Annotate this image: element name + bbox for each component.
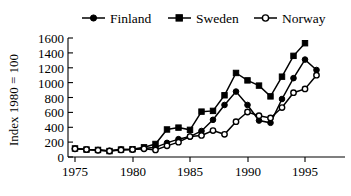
y-tick-label: 800 — [45, 91, 65, 106]
data-point-filled-square — [233, 70, 238, 75]
data-point-filled-square — [222, 93, 227, 98]
data-point-filled-square — [176, 125, 181, 130]
x-tick-label: 1980 — [120, 164, 146, 179]
legend-label-finland: Finland — [110, 11, 152, 26]
data-point-open-circle — [279, 105, 284, 110]
x-tick-label: 1990 — [235, 164, 261, 179]
y-axis-title-group: Index 1980 = 100 — [6, 54, 21, 146]
data-point-open-circle — [118, 147, 123, 152]
x-tick-label: 1985 — [177, 164, 203, 179]
open-circle-icon — [262, 15, 268, 21]
legend-label-sweden: Sweden — [196, 11, 239, 26]
data-point-filled-circle — [291, 75, 297, 81]
x-tick-label: 1995 — [292, 164, 318, 179]
data-point-filled-square — [256, 83, 261, 88]
y-tick-label: 1000 — [38, 76, 64, 91]
data-point-open-circle — [95, 148, 100, 153]
data-point-open-circle — [141, 146, 146, 151]
data-point-filled-circle — [233, 89, 239, 95]
data-point-open-circle — [245, 109, 250, 114]
data-point-filled-square — [153, 141, 158, 146]
filled-square-icon — [176, 15, 182, 21]
series-layer — [72, 41, 319, 154]
data-point-open-circle — [153, 147, 158, 152]
data-point-open-circle — [233, 119, 238, 124]
data-point-open-circle — [187, 134, 192, 139]
data-point-filled-square — [199, 109, 204, 114]
data-point-filled-square — [187, 127, 192, 132]
data-point-open-circle — [210, 128, 215, 133]
data-point-open-circle — [314, 72, 319, 77]
legend-label-norway: Norway — [282, 11, 326, 26]
y-tick-label: 0 — [58, 150, 65, 165]
data-point-open-circle — [164, 143, 169, 148]
data-point-open-circle — [130, 147, 135, 152]
legend-item-norway: Norway — [254, 11, 326, 26]
legend-item-sweden: Sweden — [168, 11, 239, 26]
y-tick-label: 200 — [45, 135, 65, 150]
data-point-open-circle — [256, 113, 261, 118]
data-point-filled-circle — [245, 102, 251, 108]
data-point-filled-square — [291, 53, 296, 58]
chart-container: Finland Sweden Norway Index 1980 = 100 — [0, 0, 351, 196]
data-point-filled-square — [302, 41, 307, 46]
data-point-open-circle — [176, 139, 181, 144]
data-point-filled-square — [268, 94, 273, 99]
data-point-open-circle — [291, 90, 296, 95]
data-point-open-circle — [84, 147, 89, 152]
data-point-filled-square — [164, 127, 169, 132]
data-point-filled-square — [279, 74, 284, 79]
filled-circle-icon — [90, 15, 96, 21]
data-point-open-circle — [222, 132, 227, 137]
y-tick-label: 1200 — [38, 61, 64, 76]
data-point-open-circle — [199, 133, 204, 138]
line-chart: Finland Sweden Norway Index 1980 = 100 — [0, 0, 351, 196]
data-point-filled-square — [245, 78, 250, 83]
axis-lines — [68, 38, 345, 157]
data-point-filled-circle — [302, 57, 308, 63]
data-point-filled-circle — [222, 102, 228, 108]
x-axis-ticks: 1975 1980 1985 1990 1995 — [62, 157, 318, 179]
legend-item-finland: Finland — [82, 11, 152, 26]
series-line-norway — [75, 75, 317, 151]
data-point-open-circle — [268, 115, 273, 120]
data-point-filled-circle — [279, 96, 285, 102]
data-point-open-circle — [302, 86, 307, 91]
x-tick-label: 1975 — [62, 164, 88, 179]
legend: Finland Sweden Norway — [82, 11, 326, 26]
y-tick-label: 400 — [45, 120, 65, 135]
y-axis-title: Index 1980 = 100 — [6, 54, 21, 146]
y-tick-label: 600 — [45, 105, 65, 120]
series-norway — [72, 72, 319, 153]
data-point-open-circle — [72, 146, 77, 151]
data-point-filled-square — [210, 108, 215, 113]
data-point-open-circle — [107, 148, 112, 153]
y-tick-label: 1400 — [38, 46, 64, 61]
y-tick-label: 1600 — [38, 31, 64, 46]
data-point-filled-circle — [210, 117, 216, 123]
